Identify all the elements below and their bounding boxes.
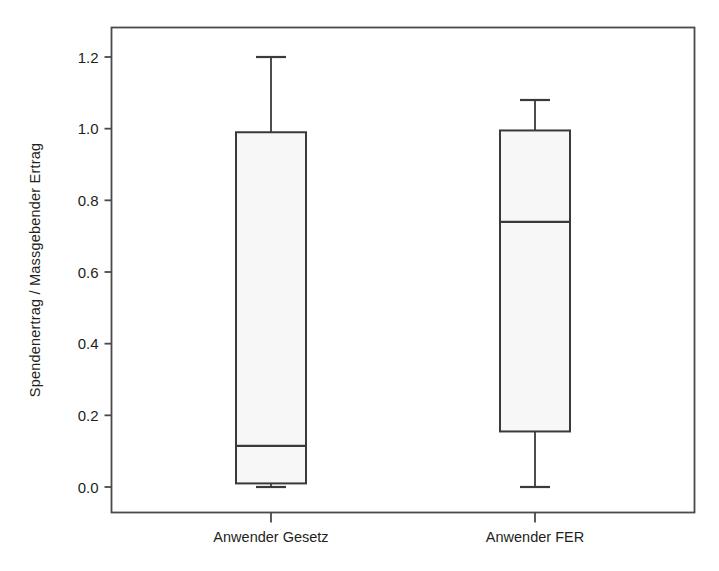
y-tick-label: 0.8 bbox=[78, 192, 99, 209]
x-tick-label: Anwender Gesetz bbox=[213, 529, 328, 545]
boxplot-svg: 0.00.20.40.60.81.01.2 Spendenertrag / Ma… bbox=[0, 0, 719, 571]
y-tick-label: 1.0 bbox=[78, 120, 99, 137]
box-plot-item bbox=[500, 100, 570, 487]
box-body bbox=[236, 132, 306, 483]
box-body bbox=[500, 130, 570, 431]
y-axis-title: Spendenertrag / Massgebender Ertrag bbox=[27, 143, 43, 397]
figure-background bbox=[0, 0, 719, 571]
boxplot-figure: 0.00.20.40.60.81.01.2 Spendenertrag / Ma… bbox=[0, 0, 719, 571]
y-tick-label: 1.2 bbox=[78, 49, 99, 66]
y-tick-label: 0.6 bbox=[78, 264, 99, 281]
x-tick-label: Anwender FER bbox=[486, 529, 584, 545]
y-tick-label: 0.0 bbox=[78, 479, 99, 496]
y-tick-label: 0.2 bbox=[78, 407, 99, 424]
y-tick-label: 0.4 bbox=[78, 335, 99, 352]
